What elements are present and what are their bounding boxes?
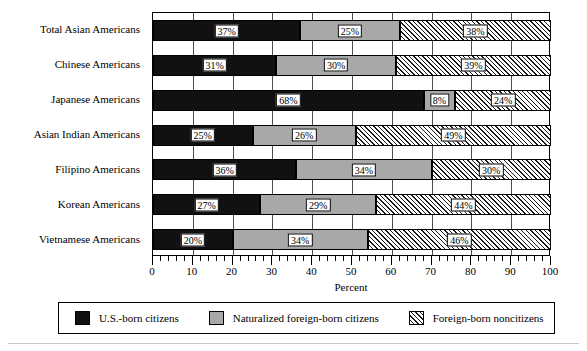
figure-container: Total Asian AmericansChinese AmericansJa… [0,0,587,351]
x-axis-minor-tick [168,256,169,261]
legend-label: Foreign-born noncitizens [433,312,544,324]
x-axis-minor-tick [160,256,161,261]
x-axis-tick-label: 10 [186,265,197,277]
x-axis-minor-tick [526,256,527,261]
bar-segment-naturalized-foreign-born-citizens: 34% [296,159,431,180]
bar-value-label: 34% [288,233,312,246]
legend-label: Naturalized foreign-born citizens [233,312,379,324]
bar-value-label: 27% [195,198,219,211]
stacked-bar: 36%34%30% [153,159,549,180]
chart-row: 27%29%44% [153,187,549,222]
hatched-swatch-icon [409,311,424,325]
x-axis-major-tick [470,256,471,265]
x-axis-minor-tick [216,256,217,261]
bar-segment-us-born-citizens: 27% [153,194,260,215]
y-axis-category-label: Korean Americans [58,186,140,221]
x-axis-minor-tick [542,256,543,261]
x-axis-major-tick [351,256,352,265]
x-axis-minor-tick [295,256,296,261]
stacked-bar: 20%34%46% [153,229,549,250]
solid-gray-swatch-icon [209,311,224,325]
bar-value-label: 34% [352,163,376,176]
x-axis-title: Percent [152,281,550,293]
x-axis-tick-label: 60 [385,265,396,277]
y-axis-category-label: Asian Indian Americans [34,117,140,152]
y-axis-category-label: Japanese Americans [51,82,140,117]
x-axis-tick-label: 70 [425,265,436,277]
bar-value-label: 37% [214,24,238,37]
bar-segment-naturalized-foreign-born-citizens: 30% [276,55,395,76]
x-axis-minor-tick [303,256,304,261]
x-axis-minor-tick [224,256,225,261]
stacked-bar-rows: 37%25%38%31%30%39%68%8%24%25%26%49%36%34… [153,13,549,255]
chart-row: 68%8%24% [153,83,549,118]
bar-value-label: 36% [212,163,236,176]
x-axis-minor-tick [287,256,288,261]
bar-value-label: 30% [479,163,503,176]
x-axis-major-tick [192,256,193,265]
bar-value-label: 39% [461,59,485,72]
x-axis-minor-tick [327,256,328,261]
x-axis-minor-tick [319,256,320,261]
x-axis-tick-label: 100 [542,265,559,277]
x-axis-tick-labels: 0102030405060708090100 [152,265,550,281]
x-axis-tick-label: 20 [226,265,237,277]
x-axis-major-tick [510,256,511,265]
bar-value-label: 25% [338,24,362,37]
bar-segment-naturalized-foreign-born-citizens: 26% [253,125,356,146]
bar-segment-foreign-born-noncitizens: 38% [400,20,551,41]
x-axis-tick-label: 50 [346,265,357,277]
x-axis-tick-label: 90 [505,265,516,277]
x-axis-minor-tick [375,256,376,261]
bar-value-label: 68% [276,94,300,107]
x-axis-minor-tick [462,256,463,261]
x-axis-minor-tick [423,256,424,261]
stacked-bar: 25%26%49% [153,125,549,146]
bar-value-label: 46% [447,233,471,246]
x-axis-minor-tick [240,256,241,261]
x-axis-minor-tick [335,256,336,261]
bar-segment-naturalized-foreign-born-citizens: 29% [260,194,375,215]
x-axis-minor-tick [248,256,249,261]
x-axis-major-tick [550,256,551,265]
y-axis-category-label: Total Asian Americans [40,12,140,47]
legend-item-foreign-born-noncitizens: Foreign-born noncitizens [409,311,544,325]
chart-row: 31%30%39% [153,48,549,83]
bar-segment-us-born-citizens: 20% [153,229,233,250]
bar-segment-naturalized-foreign-born-citizens: 25% [300,20,400,41]
bar-segment-foreign-born-noncitizens: 46% [368,229,551,250]
x-axis-major-tick [311,256,312,265]
bar-segment-foreign-born-noncitizens: 24% [455,90,551,111]
x-axis-minor-tick [255,256,256,261]
bar-value-label: 26% [292,129,316,142]
bar-value-label: 25% [191,129,215,142]
bar-segment-foreign-born-noncitizens: 44% [376,194,551,215]
stacked-bar: 27%29%44% [153,194,549,215]
x-axis-minor-tick [383,256,384,261]
chart-row: 25%26%49% [153,118,549,153]
x-axis-major-tick [431,256,432,265]
y-axis-category-label: Filipino Americans [55,151,140,186]
x-axis-minor-tick [367,256,368,261]
bar-segment-us-born-citizens: 31% [153,55,276,76]
chart-row: 37%25%38% [153,13,549,48]
x-axis-minor-tick [407,256,408,261]
bar-segment-us-born-citizens: 37% [153,20,300,41]
x-axis-tick-label: 80 [465,265,476,277]
chart-row: 20%34%46% [153,222,549,257]
x-axis-minor-tick [478,256,479,261]
x-axis-tick-label: 0 [149,265,155,277]
x-axis-minor-tick [208,256,209,261]
chart-row: 36%34%30% [153,152,549,187]
x-axis-minor-tick [486,256,487,261]
x-axis-tick-label: 30 [266,265,277,277]
x-axis-minor-tick [439,256,440,261]
y-axis-category-labels: Total Asian AmericansChinese AmericansJa… [0,12,146,256]
legend-label: U.S.-born citizens [99,312,179,324]
x-axis-minor-tick [200,256,201,261]
x-axis-minor-tick [279,256,280,261]
x-axis-minor-tick [184,256,185,261]
stacked-bar: 68%8%24% [153,90,549,111]
x-axis-minor-tick [502,256,503,261]
bar-segment-foreign-born-noncitizens: 30% [432,159,551,180]
